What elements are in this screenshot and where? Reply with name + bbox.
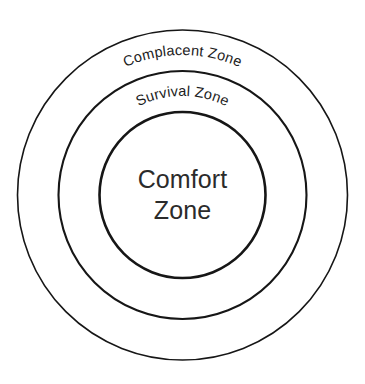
comfort-zone-label-line-1: Comfort [138, 165, 228, 193]
comfort-zone-circle [100, 112, 266, 278]
survival-zone-label-text: Survival Zone [133, 83, 232, 109]
zone-diagram-canvas: Complacent Zone Survival Zone Comfort Zo… [0, 0, 365, 384]
survival-zone-circle [59, 71, 307, 319]
complacent-zone-label-text: Complacent Zone [121, 42, 245, 70]
complacent-zone-circle [18, 30, 348, 360]
zone-diagram: Complacent Zone Survival Zone Comfort Zo… [0, 0, 365, 384]
comfort-zone-label-line-2: Zone [154, 196, 211, 224]
complacent-zone-label: Complacent Zone [121, 42, 245, 70]
survival-zone-label: Survival Zone [133, 83, 232, 109]
